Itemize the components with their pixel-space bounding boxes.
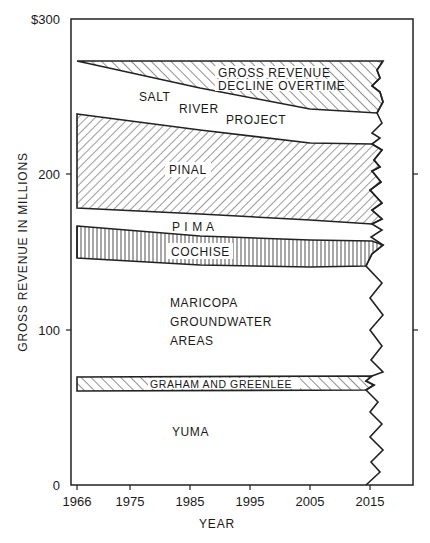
stacked-area-chart: $300 200 100 0 1966 1975 1985 1995 2005 … (0, 0, 430, 543)
y-tick-0: 0 (53, 478, 60, 493)
x-tick-1985: 1985 (176, 494, 205, 509)
label-pima: P I M A (172, 220, 215, 234)
y-axis-title: GROSS REVENUE IN MILLIONS (16, 152, 30, 351)
y-tick-200: 200 (38, 167, 60, 182)
x-tick-2015: 2015 (356, 494, 385, 509)
y-tick-300: $300 (31, 12, 60, 27)
y-tick-100: 100 (38, 323, 60, 338)
label-yuma: YUMA (172, 425, 209, 439)
break-line (366, 61, 383, 485)
label-gross-revenue: GROSS REVENUE (218, 66, 331, 80)
x-axis-title: YEAR (199, 517, 235, 531)
label-salt: SALT (139, 90, 171, 104)
label-river: RIVER (179, 102, 219, 116)
x-tick-1995: 1995 (236, 494, 265, 509)
x-tick-1975: 1975 (116, 494, 145, 509)
label-project: PROJECT (226, 113, 286, 127)
x-tick-1966: 1966 (63, 494, 92, 509)
x-tick-2005: 2005 (296, 494, 325, 509)
label-pinal: PINAL (169, 163, 207, 177)
band-pinal (77, 114, 382, 224)
label-decline-overtime: DECLINE OVERTIME (218, 79, 345, 93)
label-graham-greenlee: GRAHAM AND GREENLEE (150, 378, 292, 390)
label-areas: AREAS (170, 334, 214, 348)
label-maricopa: MARICOPA (170, 296, 238, 310)
label-cochise: COCHISE (171, 245, 230, 259)
label-groundwater: GROUNDWATER (170, 315, 272, 329)
